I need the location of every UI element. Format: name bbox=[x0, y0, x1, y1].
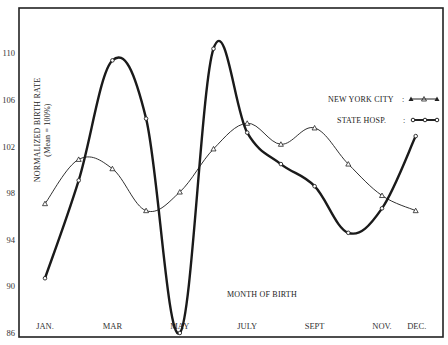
circle-marker-icon bbox=[380, 207, 384, 211]
y-axis-label: NORMALIZED BIRTH RATE bbox=[33, 78, 42, 183]
circle-marker-icon bbox=[245, 131, 249, 135]
y-tick-label: 106 bbox=[2, 95, 15, 105]
legend-label-nyc: NEW YORK CITY bbox=[328, 95, 394, 104]
circle-marker-icon bbox=[414, 134, 418, 138]
x-tick-label: JULY bbox=[237, 321, 257, 331]
y-tick-label: 90 bbox=[7, 281, 16, 291]
circle-marker-icon bbox=[111, 59, 115, 63]
y-axis-ticks: 86909498102106110 bbox=[2, 48, 16, 338]
circle-marker-icon bbox=[435, 118, 439, 122]
legend-swatch-hosp bbox=[411, 118, 439, 122]
circle-marker-icon bbox=[77, 179, 81, 183]
y-tick-label: 98 bbox=[7, 188, 16, 198]
legend: NEW YORK CITY : STATE HOSP. : bbox=[328, 95, 440, 125]
circle-marker-icon bbox=[411, 118, 415, 122]
y-axis-sublabel: (Mean = 100%) bbox=[43, 103, 52, 156]
triangle-marker-icon bbox=[76, 157, 81, 162]
circle-marker-icon bbox=[347, 231, 351, 235]
circle-marker-icon bbox=[313, 184, 317, 188]
circle-marker-icon bbox=[178, 331, 182, 335]
circle-marker-icon bbox=[144, 117, 148, 121]
x-axis-label: MONTH OF BIRTH bbox=[227, 290, 297, 299]
plot-frame bbox=[19, 8, 443, 337]
y-tick-label: 110 bbox=[3, 48, 15, 58]
series-new-york-city bbox=[43, 121, 419, 213]
legend-sep-hosp: : bbox=[403, 116, 405, 125]
x-axis-ticks: JAN.MARMAYJULYSEPTNOV.DEC. bbox=[36, 321, 426, 331]
y-axis-label-group: NORMALIZED BIRTH RATE (Mean = 100%) bbox=[33, 78, 52, 183]
x-tick-label: JAN. bbox=[36, 321, 54, 331]
series-line bbox=[45, 123, 416, 211]
y-tick-label: 102 bbox=[2, 142, 15, 152]
legend-swatch-nyc bbox=[409, 97, 440, 102]
circle-marker-icon bbox=[279, 162, 283, 166]
legend-sep-nyc: : bbox=[402, 95, 404, 104]
x-tick-label: DEC. bbox=[407, 321, 426, 331]
y-tick-label: 86 bbox=[7, 328, 16, 338]
circle-marker-icon bbox=[43, 276, 47, 280]
x-tick-label: MAR bbox=[103, 321, 123, 331]
x-tick-label: NOV. bbox=[372, 321, 391, 331]
circle-marker-icon bbox=[423, 118, 427, 122]
birth-rate-chart: 86909498102106110 JAN.MARMAYJULYSEPTNOV.… bbox=[0, 0, 448, 345]
circle-marker-icon bbox=[212, 47, 216, 51]
triangle-marker-icon bbox=[144, 208, 149, 213]
y-tick-label: 94 bbox=[7, 235, 16, 245]
triangle-marker-icon bbox=[380, 193, 385, 198]
x-tick-label: SEPT bbox=[305, 321, 326, 331]
legend-label-hosp: STATE HOSP. bbox=[337, 116, 386, 125]
